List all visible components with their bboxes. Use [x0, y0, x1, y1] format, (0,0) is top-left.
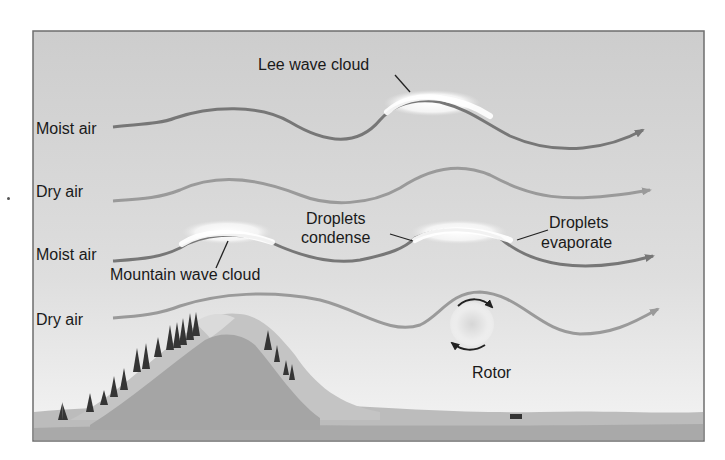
label-droplets-evaporate-2: evaporate: [541, 234, 612, 252]
diagram-stage: Moist air Dry air Moist air Dry air Lee …: [0, 0, 725, 460]
label-droplets-evaporate-1: Droplets: [549, 214, 609, 232]
label-lee-wave-cloud: Lee wave cloud: [258, 56, 369, 74]
stream-label-moist-upper: Moist air: [36, 120, 96, 138]
stream-label-dry-lower: Dry air: [36, 311, 83, 329]
vehicle-icon: [510, 414, 522, 419]
rotor-cloud: [450, 302, 494, 346]
stream-label-moist-lower: Moist air: [36, 246, 96, 264]
label-droplets-condense-2: condense: [301, 229, 370, 247]
label-mountain-wave-cloud: Mountain wave cloud: [110, 266, 260, 284]
label-rotor: Rotor: [472, 364, 511, 382]
label-droplets-condense-1: Droplets: [306, 210, 366, 228]
stream-label-dry-upper: Dry air: [36, 183, 83, 201]
